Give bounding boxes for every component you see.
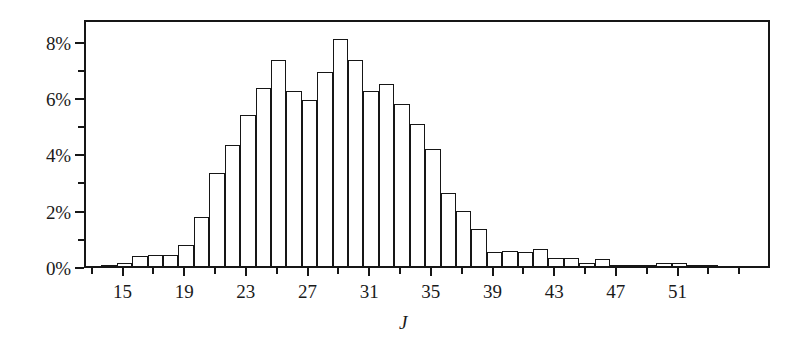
- histogram-bar: [379, 84, 394, 266]
- histogram-bar: [333, 39, 348, 266]
- y-axis-tick-label: 2%: [46, 202, 71, 221]
- y-axis-tick: [75, 98, 84, 100]
- x-axis-tick: [430, 268, 432, 276]
- x-axis-minor-tick: [337, 268, 339, 274]
- x-axis-minor-tick: [522, 268, 524, 274]
- histogram-bar: [132, 256, 147, 266]
- histogram-bar: [579, 263, 594, 266]
- histogram-bar: [101, 265, 116, 266]
- x-axis-minor-tick: [646, 268, 648, 274]
- histogram-bar: [256, 88, 271, 266]
- histogram-bar: [240, 115, 255, 266]
- histogram-bar: [148, 255, 163, 266]
- x-axis-tick-label: 31: [360, 282, 379, 302]
- x-axis-minor-tick: [214, 268, 216, 274]
- x-axis-tick: [553, 268, 555, 276]
- x-axis-title: J: [0, 312, 807, 334]
- x-axis-minor-tick: [584, 268, 586, 274]
- y-axis-tick-label: 4%: [46, 146, 71, 165]
- histogram-bar: [394, 104, 409, 266]
- x-axis-tick: [492, 268, 494, 276]
- x-axis-minor-tick: [707, 268, 709, 274]
- x-axis-tick-label: 27: [298, 282, 317, 302]
- x-axis: J 15192327313539434751: [0, 268, 807, 345]
- histogram-bar: [178, 245, 193, 266]
- x-axis-tick-label: 47: [606, 282, 625, 302]
- histogram-bar: [425, 149, 440, 266]
- x-axis-tick-label: 23: [236, 282, 255, 302]
- x-axis-tick: [245, 268, 247, 276]
- x-axis-tick-label: 35: [421, 282, 440, 302]
- histogram-bar: [610, 265, 625, 266]
- histogram-bar: [194, 217, 209, 266]
- x-axis-tick-label: 43: [545, 282, 564, 302]
- y-axis-tick: [75, 211, 84, 213]
- histogram-bar: [641, 265, 656, 266]
- histogram-bar: [471, 229, 486, 266]
- histogram-bar: [487, 252, 502, 266]
- histogram-bar: [502, 251, 517, 267]
- histogram-bar: [410, 124, 425, 266]
- histogram-bar: [317, 72, 332, 266]
- x-axis-tick-label: 15: [113, 282, 132, 302]
- x-axis-tick: [615, 268, 617, 276]
- histogram-bar: [564, 258, 579, 266]
- x-axis-minor-tick: [91, 268, 93, 274]
- histogram-bar: [518, 252, 533, 266]
- histogram-bar: [672, 263, 687, 266]
- histogram-bar: [286, 91, 301, 266]
- histogram-figure: 0%2%4%6%8% J 15192327313539434751: [0, 0, 807, 345]
- x-axis-tick-label: 39: [483, 282, 502, 302]
- histogram-bar: [687, 265, 702, 266]
- y-axis-tick-label: 8%: [46, 33, 71, 52]
- y-axis-tick: [75, 42, 84, 44]
- x-axis-tick: [122, 268, 124, 276]
- histogram-bar: [656, 263, 671, 266]
- histogram-bar: [209, 173, 224, 266]
- histogram-bar: [626, 265, 641, 266]
- x-axis-tick: [368, 268, 370, 276]
- histogram-bar: [363, 91, 378, 266]
- x-axis-tick: [677, 268, 679, 276]
- histogram-bar: [548, 258, 563, 266]
- histogram-bar: [117, 263, 132, 266]
- x-axis-minor-tick: [276, 268, 278, 274]
- x-axis-tick-label: 51: [668, 282, 687, 302]
- histogram-bar: [456, 211, 471, 266]
- histogram-bar: [595, 259, 610, 266]
- histogram-bar: [271, 60, 286, 266]
- histogram-bar: [348, 60, 363, 266]
- x-axis-minor-tick: [738, 268, 740, 274]
- histogram-bar: [302, 100, 317, 266]
- x-axis-minor-tick: [399, 268, 401, 274]
- y-axis-tick-label: 6%: [46, 89, 71, 108]
- histogram-bar: [225, 145, 240, 266]
- histogram-bar: [441, 193, 456, 266]
- x-axis-minor-tick: [461, 268, 463, 274]
- x-axis-tick: [183, 268, 185, 276]
- x-axis-tick: [307, 268, 309, 276]
- y-axis-tick: [75, 154, 84, 156]
- bars-layer: [86, 22, 768, 266]
- plot-area: [84, 20, 770, 268]
- histogram-bar: [533, 249, 548, 266]
- x-axis-tick-label: 19: [175, 282, 194, 302]
- histogram-bar: [163, 255, 178, 266]
- x-axis-minor-tick: [152, 268, 154, 274]
- histogram-bar: [703, 265, 718, 266]
